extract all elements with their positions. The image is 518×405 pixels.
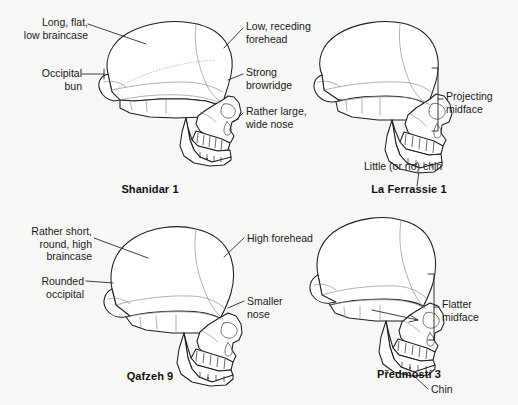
label-occipital-bun: Occipital bun <box>10 67 82 92</box>
caption-shanidar: Shanidar 1 <box>0 183 300 195</box>
caption-predmosti: Předmostí 3 <box>300 368 518 380</box>
label-rather-short-round-high-braincase: Rather short, round, high braincase <box>8 225 92 263</box>
panel-qafzeh: Rather short, round, high braincase Roun… <box>0 203 300 405</box>
leader-rounded-occipital <box>86 281 113 283</box>
panel-predmosti: Flatter midface Chin Předmostí 3 <box>300 203 518 405</box>
label-projecting-midface: Projecting midface <box>446 90 518 115</box>
leader-high-forehead <box>224 238 244 257</box>
label-rounded-occipital: Rounded occipital <box>8 275 84 300</box>
leader-smaller-nose <box>228 301 244 308</box>
skull-comparison-figure: Long, flat, low braincase Occipital bun … <box>0 0 518 405</box>
leader-low-receding-forehead <box>224 28 243 48</box>
label-flatter-midface: Flatter midface <box>442 298 516 323</box>
caption-qafzeh: Qafzeh 9 <box>0 370 300 382</box>
caption-laferrassie: La Ferrassie 1 <box>300 183 518 195</box>
panel-laferrassie: Projecting midface Little (or no) chin L… <box>300 0 518 203</box>
panel-shanidar: Long, flat, low braincase Occipital bun … <box>0 0 300 203</box>
label-chin: Chin <box>431 383 491 396</box>
label-long-flat-low-braincase: Long, flat, low braincase <box>10 16 88 41</box>
label-little-or-no-chin: Little (or no) chin <box>364 160 504 173</box>
